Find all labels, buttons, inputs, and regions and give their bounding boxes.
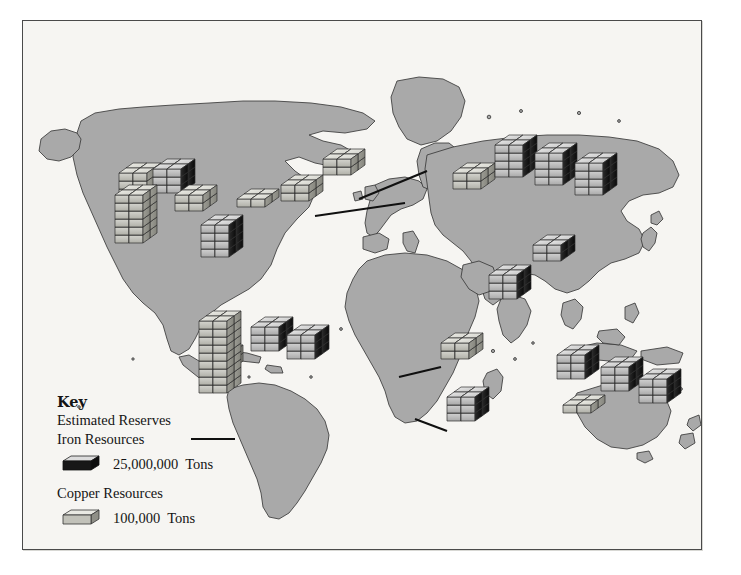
poster-root: The World's Major Iron and Copper Resour…	[0, 0, 741, 575]
block-front-face	[281, 185, 295, 193]
block-front-face	[199, 329, 213, 337]
stack-united-states-west	[115, 185, 157, 243]
block-front-face	[575, 187, 589, 195]
block-front-face	[575, 171, 589, 179]
block-front-face	[615, 383, 629, 391]
block-front-face	[215, 225, 229, 233]
block-front-face	[167, 177, 181, 185]
block-front-face	[153, 177, 167, 185]
block-front-face	[447, 413, 461, 421]
block-front-face	[213, 329, 227, 337]
legend-title: Key	[57, 393, 257, 410]
block-front-face	[455, 351, 469, 359]
block-front-face	[287, 343, 301, 351]
block-front-face	[503, 291, 517, 299]
block-front-face	[213, 321, 227, 329]
block-front-face	[533, 253, 547, 261]
block-front-face	[495, 161, 509, 169]
block-front-face	[251, 335, 265, 343]
block-front-face	[115, 203, 129, 211]
stack-australia-west	[557, 345, 599, 379]
island-dot	[491, 349, 494, 352]
block-front-face	[323, 167, 337, 175]
block-front-face	[337, 167, 351, 175]
block-front-face	[509, 169, 523, 177]
block-front-face	[653, 395, 667, 403]
stack-brazil-east	[287, 325, 329, 359]
block-front-face	[509, 161, 523, 169]
block-front-face	[571, 363, 585, 371]
block-front-face	[563, 405, 577, 413]
block-front-face	[129, 211, 143, 219]
block-front-face	[201, 241, 215, 249]
island-dot	[520, 110, 523, 113]
legend-copper-value: 100,000Tons	[113, 510, 195, 527]
block-front-face	[199, 361, 213, 369]
block-front-face	[489, 275, 503, 283]
block-front-face	[441, 351, 455, 359]
legend-iron-label: Iron Resources	[57, 430, 257, 449]
block-front-face	[213, 385, 227, 393]
land-ireland	[353, 191, 363, 201]
stack-russia-east-siberia	[575, 153, 617, 195]
block-front-face	[251, 343, 265, 351]
legend-copper-label: Copper Resources	[57, 484, 257, 503]
island-dot	[532, 342, 535, 345]
block-front-face	[115, 219, 129, 227]
block-front-face	[639, 395, 653, 403]
block-front-face	[213, 353, 227, 361]
block-front-face	[265, 335, 279, 343]
block-front-face	[175, 203, 189, 211]
block-front-face	[601, 375, 615, 383]
block-front-face	[287, 351, 301, 359]
block-front-face	[133, 173, 147, 181]
stack-united-states-east	[201, 215, 243, 257]
block-front-face	[589, 187, 603, 195]
block-front-face	[129, 203, 143, 211]
block-front-face	[557, 363, 571, 371]
block-front-face	[589, 179, 603, 187]
block-front-face	[535, 169, 549, 177]
block-front-face	[489, 291, 503, 299]
block-front-face	[215, 241, 229, 249]
block-front-face	[503, 275, 517, 283]
block-front-face	[533, 245, 547, 253]
copper-swatch-icon	[57, 507, 103, 529]
block-front-face	[495, 153, 509, 161]
block-front-face	[175, 195, 189, 203]
legend-subtitle: Estimated Reserves	[57, 411, 257, 430]
block-front-face	[455, 343, 469, 351]
block-front-face	[535, 153, 549, 161]
block-front-face	[199, 353, 213, 361]
stack-south-africa	[447, 387, 489, 421]
block-front-face	[201, 233, 215, 241]
block-front-face	[213, 369, 227, 377]
block-front-face	[601, 383, 615, 391]
block-front-face	[453, 173, 467, 181]
island-dot	[487, 115, 491, 119]
stack-australia-central	[601, 357, 643, 391]
block-front-face	[549, 177, 563, 185]
block-front-face	[535, 177, 549, 185]
block-front-face	[615, 367, 629, 375]
island-dot	[514, 358, 517, 361]
block-front-face	[577, 405, 591, 413]
block-front-face	[447, 397, 461, 405]
block-front-face	[509, 153, 523, 161]
block-front-face	[503, 283, 517, 291]
legend-iron-value: 25,000,000Tons	[113, 456, 213, 473]
block-front-face	[115, 195, 129, 203]
block-front-face	[199, 377, 213, 385]
block-front-face	[639, 379, 653, 387]
block-front-face	[575, 163, 589, 171]
block-front-face	[441, 343, 455, 351]
block-front-face	[119, 173, 133, 181]
island-dot	[248, 376, 250, 378]
block-front-face	[601, 367, 615, 375]
block-front-face	[213, 361, 227, 369]
block-front-face	[129, 227, 143, 235]
block-front-face	[323, 159, 337, 167]
block-front-face	[215, 249, 229, 257]
block-front-face	[301, 343, 315, 351]
legend-copper-row: 100,000Tons	[57, 505, 257, 531]
